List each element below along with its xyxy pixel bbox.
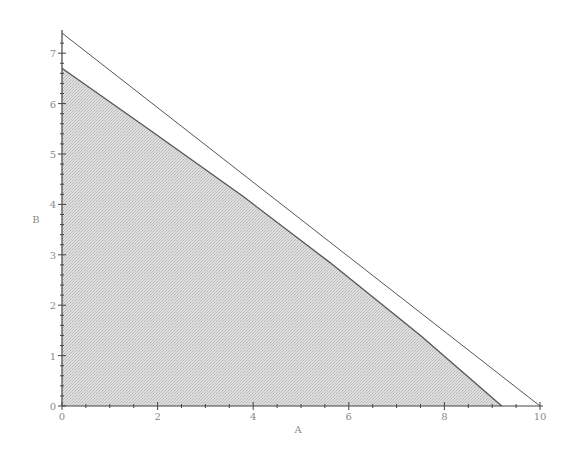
chart: 0246810 01234567 A B (0, 0, 585, 454)
y-tick-label: 3 (50, 250, 56, 261)
y-tick-label: 2 (50, 300, 56, 311)
y-axis-label: B (32, 214, 39, 225)
x-tick-label: 6 (346, 411, 352, 422)
y-tick-label: 4 (50, 199, 56, 210)
x-tick-label: 2 (154, 411, 160, 422)
y-tick-label: 1 (50, 351, 56, 362)
x-tick-label: 4 (250, 411, 256, 422)
x-axis-label: A (293, 424, 302, 435)
feasible-region (62, 68, 502, 406)
y-tick-label: 0 (50, 401, 56, 412)
x-tick-label: 0 (59, 411, 65, 422)
y-tick-label: 5 (50, 149, 56, 160)
y-tick-label: 6 (50, 99, 56, 110)
x-tick-label: 10 (534, 411, 547, 422)
y-tick-label: 7 (50, 48, 56, 59)
x-tick-label: 8 (441, 411, 447, 422)
